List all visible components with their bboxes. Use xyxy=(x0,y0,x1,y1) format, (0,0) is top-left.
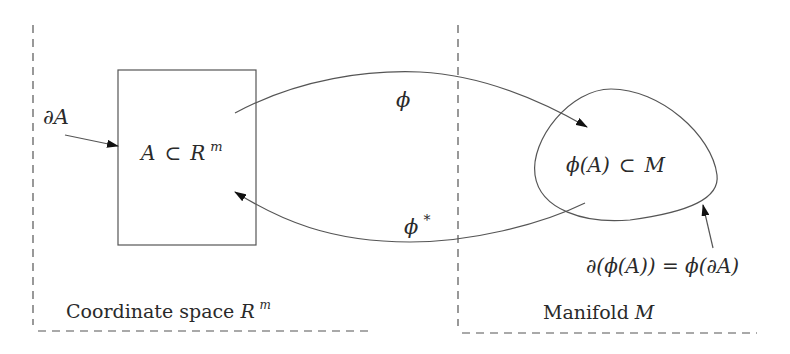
coordinate-space-region xyxy=(33,25,372,331)
set-a-rectangle xyxy=(118,70,256,245)
manifold-region xyxy=(458,25,757,333)
boundary-image-arrow xyxy=(703,205,713,248)
phi-arrow xyxy=(235,72,587,127)
boundary-a-arrow xyxy=(65,135,118,146)
manifold-mapping-diagram: ∂A A ⊂ R m ϕ ϕ * ϕ(A) ⊂ M ∂(ϕ(A)) = ϕ(∂A… xyxy=(0,0,790,354)
manifold-label: Manifold M xyxy=(543,301,655,323)
phi-star-label: ϕ * xyxy=(404,212,431,239)
coordinate-space-label: Coordinate space R m xyxy=(66,298,271,322)
image-set-label: ϕ(A) ⊂ M xyxy=(566,153,665,177)
phi-label: ϕ xyxy=(396,88,410,112)
set-a-label: A ⊂ R m xyxy=(139,139,223,165)
boundary-a-label: ∂A xyxy=(43,105,69,129)
boundary-image-label: ∂(ϕ(A)) = ϕ(∂A) xyxy=(586,254,739,278)
